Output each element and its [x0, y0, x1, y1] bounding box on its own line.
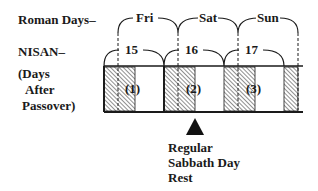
day-after-1: (1) [125, 81, 140, 96]
roman-day-sun: Sun [256, 10, 280, 25]
nisan-day-17: 17 [244, 42, 259, 57]
day-after-3: (3) [246, 81, 261, 96]
annotation-line-1: Regular [168, 140, 213, 155]
annotation-line-2: Sabbath Day [168, 155, 240, 170]
nisan-day-15: 15 [124, 42, 139, 57]
day-after-2: (2) [186, 81, 201, 96]
annotation-line-3: Rest [168, 170, 193, 185]
timeline-diagram [0, 0, 318, 191]
roman-day-fri: Fri [135, 10, 154, 25]
roman-day-sat: Sat [198, 10, 218, 25]
sabbath-marker-triangle-icon [186, 118, 204, 135]
nisan-day-16: 16 [184, 42, 199, 57]
roman-day-boundaries [118, 33, 298, 110]
